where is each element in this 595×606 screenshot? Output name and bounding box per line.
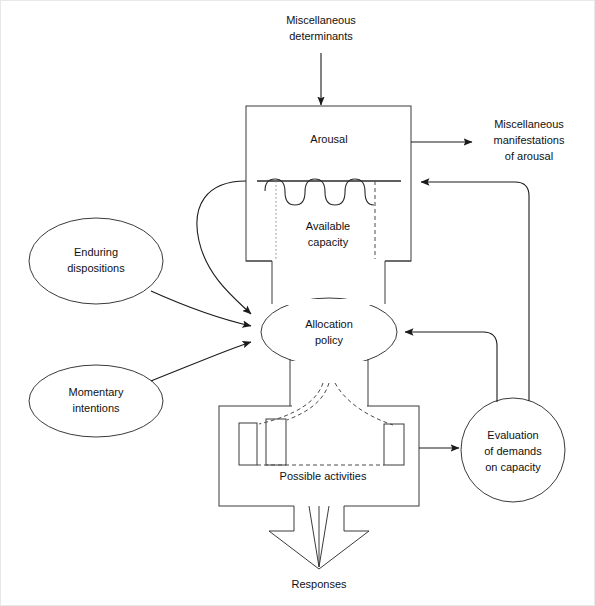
evaluation-demands-label-3: on capacity xyxy=(485,461,541,473)
available-capacity-label-2: capacity xyxy=(308,236,349,248)
misc-manifestations-label-1: Miscellaneous xyxy=(494,118,564,130)
edge-evaluation-to-allocation xyxy=(405,332,497,402)
diagram-page: Miscellaneous determinants Arousal Avail… xyxy=(0,0,595,606)
enduring-dispositions-label-2: dispositions xyxy=(67,262,125,274)
misc-manifestations-label-3: of arousal xyxy=(505,150,553,162)
evaluation-demands-label-2: of demands xyxy=(484,445,542,457)
possible-activities-label: Possible activities xyxy=(280,470,367,482)
allocation-policy-label-1: Allocation xyxy=(305,318,353,330)
responses-label: Responses xyxy=(291,578,347,590)
momentary-intentions-label-2: intentions xyxy=(72,402,120,414)
allocation-policy-label-2: policy xyxy=(315,334,344,346)
enduring-dispositions-label-1: Enduring xyxy=(74,246,118,258)
misc-determinants-label-2: determinants xyxy=(289,30,353,42)
edge-evaluation-to-arousal xyxy=(421,182,529,401)
node-responses-arrow xyxy=(269,506,369,569)
edge-enduring-to-allocation xyxy=(151,291,251,326)
edge-momentary-to-allocation xyxy=(151,342,251,381)
node-allocation-policy xyxy=(261,293,397,367)
arousal-label: Arousal xyxy=(310,133,347,145)
capacity-model-diagram: Miscellaneous determinants Arousal Avail… xyxy=(1,1,595,606)
evaluation-demands-label-1: Evaluation xyxy=(487,429,538,441)
momentary-intentions-label-1: Momentary xyxy=(68,386,124,398)
edge-capacity-to-allocation xyxy=(197,181,251,314)
available-capacity-label-1: Available xyxy=(306,220,350,232)
misc-determinants-label-1: Miscellaneous xyxy=(286,14,356,26)
misc-manifestations-label-2: manifestations xyxy=(494,134,565,146)
